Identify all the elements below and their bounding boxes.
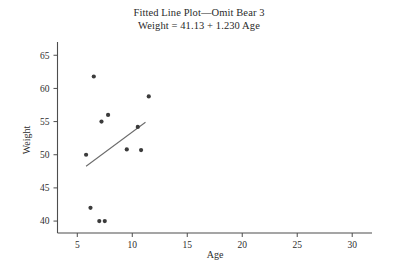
- y-tick-label: 45: [40, 183, 50, 193]
- data-point: [84, 153, 88, 157]
- plot-canvas: 404550556065 51015202530 Age Weight: [0, 0, 398, 279]
- data-point: [97, 219, 101, 223]
- data-point: [147, 94, 151, 98]
- regression-line-group: [86, 122, 145, 166]
- x-tick-label: 10: [128, 240, 138, 250]
- x-tick-label: 5: [75, 240, 80, 250]
- fitted-line-plot: Fitted Line Plot—Omit Bear 3 Weight = 41…: [0, 0, 398, 279]
- x-tick-label: 15: [183, 240, 193, 250]
- regression-line: [86, 122, 145, 166]
- x-tick-label: 20: [237, 240, 247, 250]
- x-tick-label: 30: [347, 240, 357, 250]
- y-tick-label: 60: [40, 84, 50, 94]
- x-axis-title: Age: [207, 249, 224, 260]
- data-point: [92, 74, 96, 78]
- axes-group: [58, 42, 373, 233]
- y-tick-label: 40: [40, 216, 50, 226]
- data-point: [106, 113, 110, 117]
- data-point: [125, 147, 129, 151]
- y-tick-label: 50: [40, 150, 50, 160]
- data-point: [103, 219, 107, 223]
- y-tick-label: 55: [40, 117, 50, 127]
- x-axis-ticks: 51015202530: [75, 233, 357, 250]
- data-point: [139, 148, 143, 152]
- y-tick-label: 65: [40, 51, 50, 61]
- y-axis-title: Weight: [21, 125, 32, 154]
- data-point: [88, 206, 92, 210]
- data-point: [136, 125, 140, 129]
- y-axis-ticks: 404550556065: [40, 51, 58, 227]
- data-points-group: [84, 74, 151, 223]
- data-point: [99, 119, 103, 123]
- x-tick-label: 25: [292, 240, 302, 250]
